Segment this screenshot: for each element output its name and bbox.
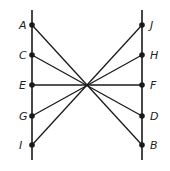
point-G <box>29 113 35 119</box>
label-A: A <box>18 19 27 32</box>
lines-layer <box>32 10 142 160</box>
point-D <box>139 113 145 119</box>
label-D: D <box>150 110 158 123</box>
label-F: F <box>150 79 157 92</box>
label-I: I <box>19 139 22 152</box>
point-J <box>139 22 145 28</box>
label-H: H <box>150 49 158 62</box>
point-C <box>29 52 35 58</box>
label-E: E <box>19 79 26 92</box>
point-I <box>29 142 35 148</box>
label-G: G <box>19 110 28 123</box>
point-H <box>139 52 145 58</box>
label-C: C <box>19 49 27 62</box>
label-J: J <box>148 19 153 32</box>
point-A <box>29 22 35 28</box>
point-E <box>29 82 35 88</box>
segments-diagram: ACEGIJHFDB <box>0 0 170 171</box>
label-B: B <box>150 139 158 152</box>
point-F <box>139 82 145 88</box>
point-B <box>139 142 145 148</box>
